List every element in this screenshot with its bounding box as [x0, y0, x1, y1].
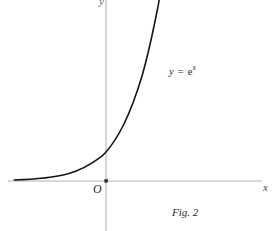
- exponential-curve: [14, 0, 160, 180]
- curve-equation-label: y = ex: [169, 64, 196, 77]
- origin-dot: [104, 179, 107, 182]
- origin-label: O: [93, 183, 102, 195]
- plot-canvas: [0, 0, 275, 231]
- figure-caption: Fig. 2: [172, 206, 198, 218]
- x-axis-label: x: [263, 182, 268, 193]
- curve-label-equals: =: [174, 66, 188, 77]
- curve-label-exponent: x: [193, 63, 197, 72]
- y-axis-label: y: [99, 0, 104, 7]
- figure-container: y x O y = ex Fig. 2: [0, 0, 275, 231]
